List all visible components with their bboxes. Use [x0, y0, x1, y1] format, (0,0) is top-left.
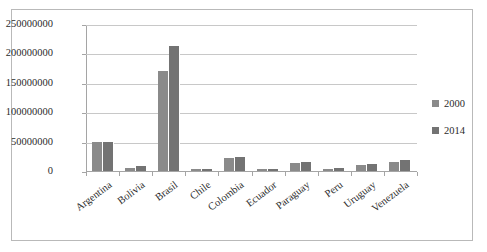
category-axis-tick-mark: [417, 172, 418, 176]
bar-2000-chile: [191, 169, 202, 171]
gridline: [86, 84, 417, 85]
value-axis-tick-label: 200000000: [0, 48, 53, 59]
bar-2000-peru: [323, 169, 334, 171]
bar-2014-paraguay: [301, 162, 312, 171]
legend-swatch-icon: [432, 127, 439, 134]
bar-group: [119, 166, 152, 171]
bar-2014-chile: [202, 169, 213, 171]
value-axis-tick-label: 250000000: [0, 19, 53, 30]
bar-group: [318, 168, 351, 171]
bar-2014-ecuador: [268, 169, 279, 171]
bar-2000-uruguay: [356, 165, 367, 171]
chart-frame: 2500000002000000001500000001000000005000…: [11, 9, 473, 241]
category-axis-tick-mark: [384, 172, 385, 176]
bar-group: [218, 157, 251, 171]
bar-group: [86, 142, 119, 171]
value-axis-tick-label: 0: [0, 166, 53, 177]
gridline: [86, 113, 417, 114]
bar-2014-venezuela: [400, 160, 411, 171]
plot-area: [86, 25, 417, 172]
legend-label: 2014: [444, 125, 465, 136]
bar-group: [152, 46, 185, 171]
legend-item-2014[interactable]: 2014: [432, 125, 465, 136]
category-axis-tick-mark: [86, 172, 87, 176]
category-axis-tick-mark: [152, 172, 153, 176]
gridline: [86, 25, 417, 26]
legend: 20002014: [432, 98, 465, 152]
gridline: [86, 143, 417, 144]
bar-group: [252, 169, 285, 171]
bar-group: [185, 169, 218, 171]
category-axis-tick-mark: [285, 172, 286, 176]
value-axis-tick-label: 100000000: [0, 107, 53, 118]
bar-2000-ecuador: [257, 169, 268, 171]
legend-item-2000[interactable]: 2000: [432, 98, 465, 109]
category-axis-tick-mark: [119, 172, 120, 176]
bar-2000-argentina: [92, 142, 103, 171]
bar-2000-brasil: [158, 71, 169, 171]
legend-label: 2000: [444, 98, 465, 109]
value-axis-tick-label: 150000000: [0, 78, 53, 89]
category-axis-tick-mark: [185, 172, 186, 176]
bar-2014-brasil: [169, 46, 180, 171]
value-axis-tick-label: 50000000: [0, 137, 53, 148]
bar-2000-paraguay: [290, 163, 301, 171]
bar-2014-colombia: [235, 157, 246, 171]
bar-2014-uruguay: [367, 164, 378, 171]
legend-swatch-icon: [432, 100, 439, 107]
bar-2000-venezuela: [389, 162, 400, 171]
bar-2014-peru: [334, 168, 345, 171]
category-axis-tick-mark: [218, 172, 219, 176]
bar-2000-colombia: [224, 158, 235, 171]
bar-2000-bolivia: [125, 168, 136, 171]
bar-group: [384, 160, 417, 171]
bar-2014-bolivia: [136, 166, 147, 171]
bar-group: [351, 164, 384, 171]
gridline: [86, 54, 417, 55]
category-axis-tick-mark: [252, 172, 253, 176]
category-axis-tick-mark: [318, 172, 319, 176]
bar-2014-argentina: [103, 142, 114, 171]
category-axis-tick-mark: [351, 172, 352, 176]
bar-group: [285, 162, 318, 171]
